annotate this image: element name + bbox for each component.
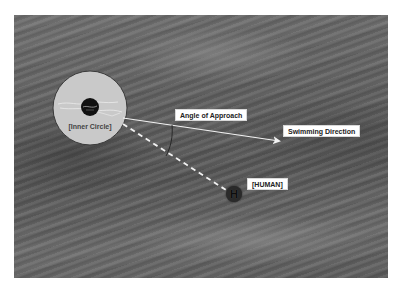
swimmer-center-dot xyxy=(81,98,99,116)
human-marker-glyph: H xyxy=(230,188,238,200)
angle-of-approach-label: Angle of Approach xyxy=(175,109,247,121)
approach-path-dashed-line xyxy=(123,124,226,190)
human-marker: H xyxy=(226,186,242,202)
human-label: [HUMAN] xyxy=(247,178,288,190)
swimming-direction-label: Swimming Direction xyxy=(283,125,360,137)
diagram-overlay xyxy=(0,0,401,291)
angle-arc xyxy=(166,125,172,156)
inner-circle-label: [Inner Circle] xyxy=(60,123,120,130)
